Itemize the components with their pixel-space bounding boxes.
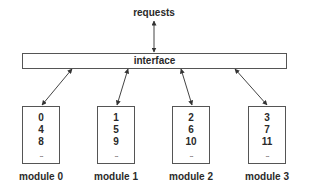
module-value: 2 bbox=[188, 112, 194, 124]
module-2-arrow bbox=[181, 69, 192, 105]
module-2-label: module 2 bbox=[156, 171, 226, 182]
module-2-box: 2 6 10 ... bbox=[172, 106, 210, 164]
module-value: 0 bbox=[38, 112, 44, 124]
module-value: 4 bbox=[38, 124, 44, 136]
module-value: 11 bbox=[262, 136, 273, 148]
module-ellipsis: ... bbox=[39, 149, 43, 161]
module-value: 6 bbox=[188, 124, 194, 136]
module-3-arrow bbox=[235, 69, 267, 105]
interface-box: interface bbox=[22, 53, 287, 69]
module-3-box: 3 7 11 ... bbox=[248, 106, 286, 164]
interface-label: interface bbox=[23, 55, 286, 66]
module-1-arrow bbox=[117, 69, 128, 105]
module-ellipsis: ... bbox=[114, 149, 118, 161]
requests-label: requests bbox=[124, 7, 184, 18]
module-value: 8 bbox=[38, 136, 44, 148]
module-value: 9 bbox=[113, 136, 119, 148]
module-ellipsis: ... bbox=[189, 149, 193, 161]
module-value: 1 bbox=[113, 112, 119, 124]
module-value: 5 bbox=[113, 124, 119, 136]
module-value: 3 bbox=[264, 112, 270, 124]
module-ellipsis: ... bbox=[265, 149, 269, 161]
connector-arrows bbox=[0, 0, 314, 194]
module-1-label: module 1 bbox=[81, 171, 151, 182]
module-3-label: module 3 bbox=[232, 171, 302, 182]
module-0-arrow bbox=[42, 69, 72, 105]
module-1-box: 1 5 9 ... bbox=[97, 106, 135, 164]
module-value: 10 bbox=[185, 136, 196, 148]
module-0-label: module 0 bbox=[6, 171, 76, 182]
module-0-box: 0 4 8 ... bbox=[22, 106, 60, 164]
module-value: 7 bbox=[264, 124, 270, 136]
